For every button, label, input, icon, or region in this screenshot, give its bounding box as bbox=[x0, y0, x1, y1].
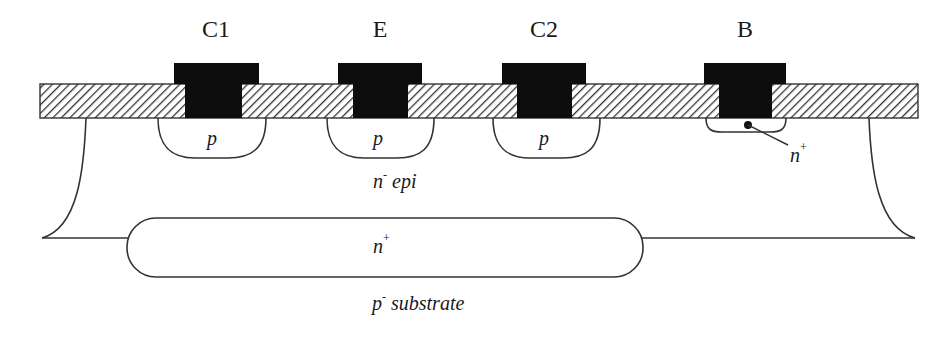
terminal-label-c1: C1 bbox=[202, 16, 230, 42]
p-wells bbox=[158, 118, 786, 158]
epi-label: n- epi bbox=[373, 168, 416, 193]
base-n-plus-label: n+ bbox=[790, 140, 807, 166]
terminal-label-c2: C2 bbox=[530, 16, 558, 42]
p-well-label-c1: p bbox=[205, 127, 217, 150]
terminal-label-e: E bbox=[373, 16, 388, 42]
lateral-pnp-cross-section: C1 E C2 B p p p n+ n- epi n+ p- substrat… bbox=[0, 0, 948, 338]
buried-n-plus-layer bbox=[127, 218, 643, 277]
terminal-label-b: B bbox=[737, 16, 753, 42]
substrate-label: p- substrate bbox=[370, 290, 464, 315]
oxide-layer bbox=[40, 84, 918, 118]
p-well-label-c2: p bbox=[537, 127, 549, 150]
p-well-label-e: p bbox=[371, 127, 383, 150]
